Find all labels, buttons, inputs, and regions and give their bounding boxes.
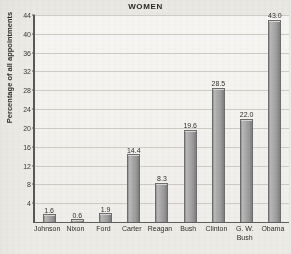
bar-value-label: 8.3 <box>157 175 167 182</box>
bar-slot: 1.6 <box>35 15 63 222</box>
x-tick-label: G. W.Bush <box>231 225 259 242</box>
x-tick-label: Carter <box>118 225 146 242</box>
chart-title: WOMEN <box>0 2 291 11</box>
bar[interactable]: 14.4 <box>127 154 140 222</box>
x-tick-label-line: Johnson <box>33 225 61 234</box>
y-tick-label: 16 <box>23 143 31 150</box>
bar[interactable]: 22.0 <box>240 119 253 223</box>
y-tick-label: 20 <box>23 124 31 131</box>
x-tick-label-line: G. W. <box>231 225 259 234</box>
bar[interactable]: 1.6 <box>43 214 56 222</box>
x-tick-label-line: Bush <box>231 234 259 243</box>
bar-slot: 22.0 <box>233 15 261 222</box>
plot-area: 48121620242832364044 1.60.61.914.48.319.… <box>33 15 289 223</box>
bar[interactable]: 1.9 <box>99 213 112 222</box>
x-tick-label: Nixon <box>61 225 89 242</box>
x-tick-label-line: Reagan <box>146 225 174 234</box>
y-tick-label: 44 <box>23 12 31 19</box>
bar-slot: 14.4 <box>120 15 148 222</box>
x-axis-labels: JohnsonNixonFordCarterReaganBushClintonG… <box>33 225 287 242</box>
y-tick-label: 40 <box>23 30 31 37</box>
bar[interactable]: 19.6 <box>184 130 197 222</box>
y-tick-label: 8 <box>27 181 31 188</box>
x-tick-label-line: Carter <box>118 225 146 234</box>
bar-slot: 8.3 <box>148 15 176 222</box>
bar-series: 1.60.61.914.48.319.628.522.043.0 <box>35 15 289 222</box>
bar-slot: 19.6 <box>176 15 204 222</box>
bar[interactable]: 43.0 <box>268 20 281 222</box>
chart-figure: WOMEN Percentage of all appointments 481… <box>0 0 291 254</box>
bar-value-label: 1.6 <box>44 207 54 214</box>
y-tick-label: 12 <box>23 162 31 169</box>
bar-value-label: 28.5 <box>212 80 226 87</box>
y-tick-label: 24 <box>23 106 31 113</box>
bar-slot: 28.5 <box>204 15 232 222</box>
y-tick-label: 32 <box>23 68 31 75</box>
y-tick-label: 28 <box>23 87 31 94</box>
bar-slot: 43.0 <box>261 15 289 222</box>
bar-value-label: 43.0 <box>268 12 282 19</box>
bar-value-label: 14.4 <box>127 147 141 154</box>
bar-value-label: 22.0 <box>240 111 254 118</box>
bar-value-label: 1.9 <box>101 206 111 213</box>
bar-value-label: 0.6 <box>72 212 82 219</box>
x-tick-label-line: Bush <box>174 225 202 234</box>
x-tick-label: Ford <box>89 225 117 242</box>
bar[interactable]: 8.3 <box>155 183 168 222</box>
y-axis-title: Percentage of all appointments <box>5 0 14 148</box>
x-tick-label-line: Ford <box>89 225 117 234</box>
x-tick-label: Obama <box>259 225 287 242</box>
bar[interactable]: 28.5 <box>212 88 225 222</box>
x-tick-label: Clinton <box>202 225 230 242</box>
x-tick-label-line: Clinton <box>202 225 230 234</box>
x-tick-label-line: Nixon <box>61 225 89 234</box>
bar-value-label: 19.6 <box>183 122 197 129</box>
y-tick-label: 36 <box>23 49 31 56</box>
bar[interactable]: 0.6 <box>71 219 84 222</box>
x-tick-label: Bush <box>174 225 202 242</box>
y-tick-label: 4 <box>27 200 31 207</box>
bar-slot: 0.6 <box>63 15 91 222</box>
x-tick-label: Johnson <box>33 225 61 242</box>
x-tick-label-line: Obama <box>259 225 287 234</box>
bar-slot: 1.9 <box>91 15 119 222</box>
x-tick-label: Reagan <box>146 225 174 242</box>
